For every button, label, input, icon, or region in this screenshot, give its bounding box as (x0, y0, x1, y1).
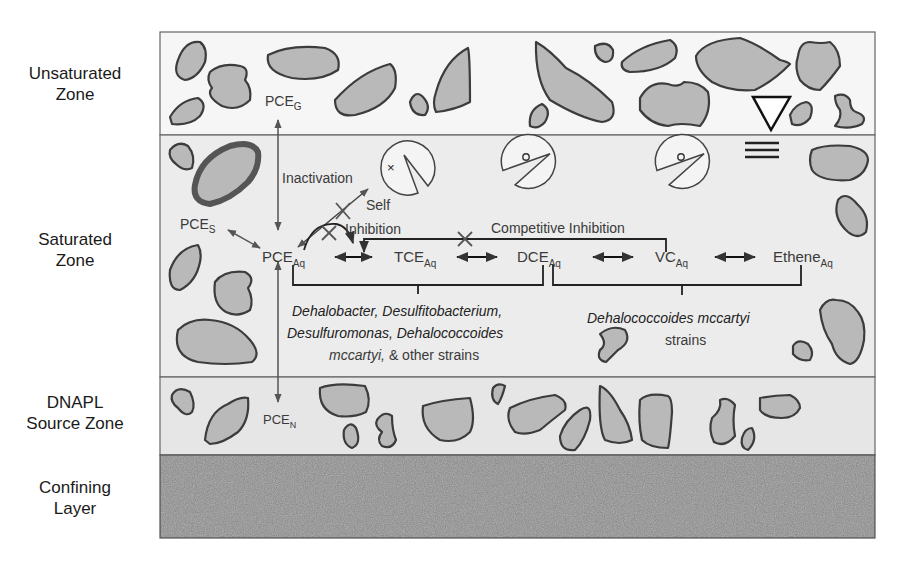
organism-group2-line2: strains (665, 332, 706, 348)
self-inhibition-label: Inhibition (345, 221, 401, 237)
organism-group1-line1: Dehalobacter, Desulfitobacterium, (292, 303, 502, 319)
self-inhibition-label: Self (366, 197, 390, 213)
inactivation-label: Inactivation (282, 170, 353, 186)
subsurface-diagram: × PCEG PCES PCEN PCEAq TCEAq DCEAq VCAq … (0, 0, 900, 568)
competitive-inhibition-label: Competitive Inhibition (491, 220, 625, 236)
confining-layer-texture (161, 456, 874, 537)
organism-group1-line3: mccartyi, & other strains (329, 347, 479, 363)
svg-text:×: × (387, 160, 395, 175)
organism-group1-line2: Desulfuromonas, Dehalococcoides (287, 325, 503, 341)
organism-group2-line1: Dehalococcoides mccartyi (587, 310, 751, 326)
